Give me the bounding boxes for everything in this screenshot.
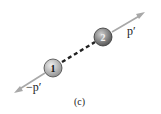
particle-2: 2 xyxy=(94,28,112,46)
diagram-canvas: 1 2 p′ −p′ (c) xyxy=(0,0,161,114)
momentum-label-2: p′ xyxy=(127,24,136,39)
particle-1: 1 xyxy=(44,59,62,77)
dashed-bond xyxy=(62,42,95,62)
svg-text:1: 1 xyxy=(51,63,56,74)
momentum-label-1: −p′ xyxy=(26,80,41,95)
svg-text:2: 2 xyxy=(101,32,106,43)
figure-caption: (c) xyxy=(74,96,85,107)
